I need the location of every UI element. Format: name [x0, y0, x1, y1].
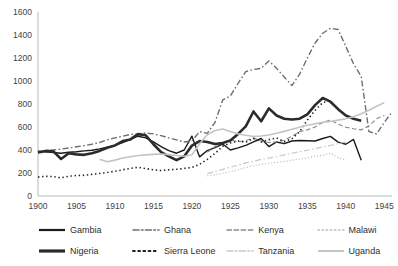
legend-label-ghana: Ghana	[164, 225, 191, 235]
y-tick-600: 600	[18, 122, 32, 132]
legend-item-tanzania[interactable]: Tanzania	[226, 246, 316, 256]
y-tick-800: 800	[18, 99, 32, 109]
plot-svg: 02004006008001000120014001600 1900190519…	[0, 0, 398, 218]
legend-item-uganda[interactable]: Uganda	[317, 246, 398, 256]
legend-swatch-gambia-icon	[38, 225, 66, 235]
legend-item-ghana[interactable]: Ghana	[132, 225, 226, 235]
x-tick-1925: 1925	[221, 201, 240, 211]
legend-swatch-sierraleone-icon	[132, 246, 160, 256]
legend-item-nigeria[interactable]: Nigeria	[38, 246, 132, 256]
legend-row-bottom: NigeriaSierra LeoneTanzaniaUganda	[0, 240, 398, 261]
y-tick-200: 200	[18, 168, 32, 178]
x-tick-1915: 1915	[144, 201, 163, 211]
legend-label-tanzania: Tanzania	[258, 246, 294, 256]
legend-swatch-nigeria-icon	[38, 246, 66, 256]
y-tick-0: 0	[27, 191, 32, 201]
legend-swatch-kenya-icon	[226, 225, 254, 235]
x-tick-1920: 1920	[182, 201, 201, 211]
legend-label-gambia: Gambia	[70, 225, 102, 235]
series-line-ghana	[38, 28, 392, 152]
legend-swatch-uganda-icon	[317, 246, 345, 256]
chart-legend: GambiaGhanaKenyaMalawi NigeriaSierra Leo…	[0, 219, 398, 266]
x-tick-1930: 1930	[259, 201, 278, 211]
x-tick-1945: 1945	[375, 201, 394, 211]
x-tick-1905: 1905	[67, 201, 86, 211]
x-axis-tick-labels: 1900190519101915192019251930193519401945	[29, 201, 394, 211]
series-line-tanzania	[207, 142, 346, 174]
legend-item-sierraleone[interactable]: Sierra Leone	[132, 246, 226, 256]
y-tick-1200: 1200	[13, 53, 32, 63]
y-tick-1600: 1600	[13, 7, 32, 17]
legend-item-malawi[interactable]: Malawi	[317, 225, 398, 235]
legend-label-nigeria: Nigeria	[70, 246, 99, 256]
legend-label-malawi: Malawi	[349, 225, 377, 235]
legend-label-uganda: Uganda	[349, 246, 381, 256]
x-tick-1900: 1900	[29, 201, 48, 211]
legend-label-kenya: Kenya	[258, 225, 284, 235]
x-tick-1940: 1940	[336, 201, 355, 211]
x-tick-1935: 1935	[298, 201, 317, 211]
line-chart: 02004006008001000120014001600 1900190519…	[0, 0, 398, 266]
legend-swatch-tanzania-icon	[226, 246, 254, 256]
x-tick-1910: 1910	[105, 201, 124, 211]
plot-area: 02004006008001000120014001600 1900190519…	[0, 0, 398, 218]
y-tick-1000: 1000	[13, 76, 32, 86]
y-tick-400: 400	[18, 145, 32, 155]
data-series-group	[38, 28, 392, 178]
legend-swatch-malawi-icon	[317, 225, 345, 235]
legend-swatch-ghana-icon	[132, 225, 160, 235]
legend-item-kenya[interactable]: Kenya	[226, 225, 316, 235]
legend-label-sierraleone: Sierra Leone	[164, 246, 216, 256]
y-tick-1400: 1400	[13, 30, 32, 40]
y-axis-tick-labels: 02004006008001000120014001600	[13, 7, 32, 201]
legend-item-gambia[interactable]: Gambia	[38, 225, 132, 235]
series-line-sierra-leone	[38, 101, 330, 178]
legend-row-top: GambiaGhanaKenyaMalawi	[0, 219, 398, 240]
